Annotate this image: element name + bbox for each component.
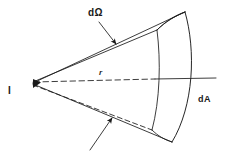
- patch-back-curved-edge: [152, 30, 159, 130]
- solid-angle-figure: I dΩ r dA: [0, 0, 225, 152]
- patch-top-ruling: [157, 12, 185, 30]
- solid-angle-arrow: [99, 22, 116, 44]
- label-radius: r: [99, 69, 102, 77]
- cone-edge-lower-front: [33, 84, 172, 142]
- patch-top-edge: [157, 12, 185, 30]
- radius-axis-solid: [155, 78, 216, 79]
- label-area-element: dA: [198, 95, 211, 104]
- patch-bottom-edge: [152, 130, 172, 142]
- label-source-intensity: I: [8, 86, 11, 96]
- lower-edge-arrow: [90, 118, 112, 150]
- cone-edge-lower-back-hidden: [33, 85, 152, 130]
- cone-edge-upper-front: [33, 12, 185, 83]
- figure-canvas: [0, 0, 225, 152]
- radius-axis-dashed: [34, 79, 155, 82]
- label-solid-angle: dΩ: [88, 8, 103, 18]
- patch-front-curved-edge: [172, 12, 192, 142]
